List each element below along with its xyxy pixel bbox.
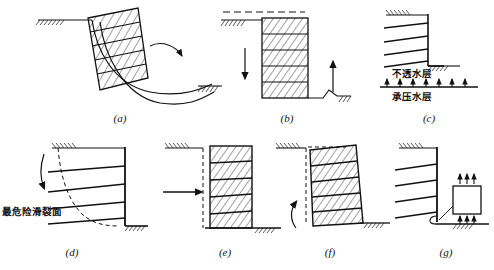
- panel-a: [0, 0, 230, 115]
- panel-f: [272, 136, 392, 246]
- retaining-wall-outline: [125, 147, 148, 226]
- retaining-wall-hatched: [210, 146, 252, 228]
- ground-line-left: [276, 143, 306, 148]
- panel-label-c: (c): [409, 112, 449, 124]
- rotation-arrow: [292, 202, 297, 228]
- most-dangerous-slip-surface-label: 最危险滑裂面: [2, 204, 62, 218]
- panel-label-a: (a): [100, 112, 140, 124]
- soil-element-box: [453, 186, 481, 214]
- rotation-arrow: [41, 154, 44, 188]
- ground-line-top: [386, 10, 428, 15]
- motion-arrow: [150, 44, 182, 56]
- panel-label-e: (e): [205, 246, 245, 258]
- ground-line-left: [221, 20, 263, 26]
- panel-g: [385, 136, 494, 246]
- panel-b: [205, 0, 355, 115]
- panel-label-b: (b): [267, 112, 307, 124]
- retaining-wall-hatched-tilted: [310, 145, 363, 226]
- ground-line-top: [399, 143, 437, 148]
- figure-canvas: (a): [0, 0, 494, 270]
- upward-pressure-arrows-top: [460, 174, 474, 184]
- panel-d: [0, 136, 155, 246]
- retaining-wall-outline: [428, 14, 444, 66]
- ground-hatch-right: [339, 96, 351, 102]
- panel-e: [155, 136, 285, 246]
- wall-toe-curve: [430, 216, 437, 224]
- ground-line-left: [36, 20, 92, 25]
- panel-label-d: (d): [52, 246, 92, 258]
- panel-label-g: (g): [426, 246, 466, 258]
- retaining-wall-hatched: [88, 8, 148, 90]
- excavation-base: [205, 228, 281, 233]
- uplift-pressure-arrows: [387, 79, 465, 87]
- strut-lines: [395, 164, 437, 218]
- heaved-ground-profile: [308, 90, 351, 98]
- upward-pressure-arrows-bottom: [460, 216, 474, 224]
- ground-line-top: [52, 143, 125, 148]
- panel-label-f: (f): [310, 246, 350, 258]
- excavation-base: [435, 224, 489, 229]
- dashed-slip-surface: [58, 148, 118, 226]
- confined-aquifer-label: 承压水层: [392, 89, 432, 103]
- impermeable-layer-label: 不透水层: [392, 66, 432, 80]
- strut-lines: [384, 23, 428, 67]
- retaining-wall-hatched: [262, 18, 308, 98]
- ground-line-left: [165, 143, 203, 148]
